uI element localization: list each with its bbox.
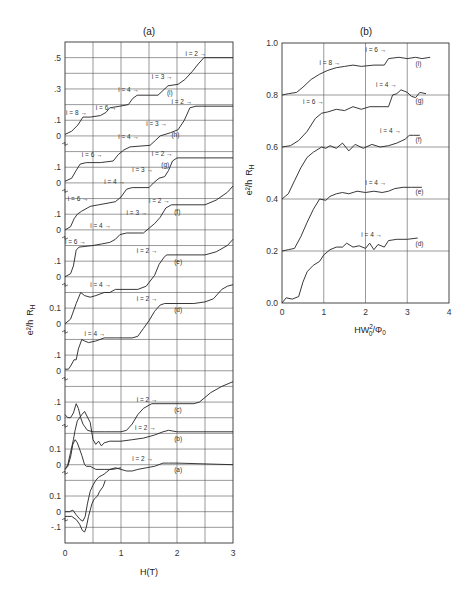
y-tick-label: 0 bbox=[56, 319, 61, 329]
curve-label: (i) bbox=[167, 89, 173, 97]
y-tick-label: 0 bbox=[56, 460, 61, 470]
curve-label: (b) bbox=[174, 435, 182, 443]
axis-break-mark bbox=[62, 189, 68, 192]
filling-factor-annotation: i = 4 → bbox=[104, 178, 125, 185]
y-label-subscript: H bbox=[29, 304, 36, 309]
y-tick-label: .5 bbox=[54, 53, 61, 63]
curve-label: (g) bbox=[416, 97, 424, 105]
curve-i bbox=[282, 57, 430, 95]
filling-factor-annotation: i = 4 → bbox=[90, 281, 111, 288]
y-label-fraction: e²/h bbox=[25, 320, 35, 336]
curve-a-low bbox=[65, 480, 105, 532]
y-tick-label: .1 bbox=[54, 115, 61, 125]
y-tick-label: 0 bbox=[56, 131, 61, 141]
filling-factor-annotation: i = 3 → bbox=[132, 166, 153, 173]
filling-factor-annotation: i = 2 → bbox=[171, 98, 192, 105]
curve-f bbox=[282, 135, 420, 199]
filling-factor-annotation: i = 4 → bbox=[118, 133, 139, 140]
panel-b-grid bbox=[282, 43, 449, 303]
axis-break-mark bbox=[62, 142, 68, 145]
y-tick-label: 0 bbox=[56, 178, 61, 188]
filling-factor-annotation: i = 2 → bbox=[137, 247, 158, 254]
y-tick-label: 0.1 bbox=[49, 444, 61, 454]
filling-factor-annotation: i = 4 → bbox=[380, 127, 401, 134]
filling-factor-annotation: i = 2 → bbox=[137, 396, 158, 403]
filling-factor-annotation: i = 6 → bbox=[68, 195, 89, 202]
curve-e bbox=[282, 187, 422, 251]
filling-factor-annotation: i = 4 → bbox=[366, 179, 387, 186]
y-tick-label: 0.4 bbox=[266, 194, 278, 204]
filling-factor-annotation: i = 8 → bbox=[320, 59, 341, 66]
curve-label: (f) bbox=[174, 208, 180, 216]
x-tick-label: 2 bbox=[175, 548, 180, 558]
y-label-subscript: H bbox=[248, 164, 255, 169]
curve-label: (i) bbox=[416, 60, 422, 68]
filling-factor-annotation: i = 8 → bbox=[66, 109, 87, 116]
filling-factor-annotation: i = 6 → bbox=[303, 98, 324, 105]
y-tick-label: 0 bbox=[56, 413, 61, 423]
curve-label: (c) bbox=[174, 406, 182, 414]
filling-factor-annotation: i = 6 → bbox=[366, 46, 387, 53]
panel-a-title: (a) bbox=[143, 26, 155, 37]
x-tick-label: 3 bbox=[405, 307, 410, 317]
x-tick-label: 0 bbox=[63, 548, 68, 558]
y-tick-label: .1 bbox=[54, 256, 61, 266]
figure-canvas: (a) i = 8 →i = 6 →i = 4 →i = 3 →i = 2 →(… bbox=[0, 0, 471, 591]
curve-label: (a) bbox=[174, 466, 182, 474]
panel-a-x-label: H(T) bbox=[140, 567, 158, 577]
panel-b-y-ticks: 0.00.20.40.60.81.0 bbox=[266, 38, 278, 308]
panel-b-curves: i = 8 →i = 6 →(i)i = 6 →i = 4 →(g)i = 4 … bbox=[282, 46, 430, 303]
y-tick-label: 0 bbox=[56, 366, 61, 376]
filling-factor-annotation: i = 3 → bbox=[146, 120, 167, 127]
y-tick-label: 0 bbox=[56, 272, 61, 282]
y-tick-label: .3 bbox=[54, 84, 61, 94]
panel-a-y-label: e²/hRH bbox=[25, 304, 36, 335]
filling-factor-annotation: i = 6 → bbox=[96, 104, 117, 111]
y-tick-label: .1 bbox=[54, 397, 61, 407]
panel-b-chart: (b) i = 8 →i = 6 →(i)i = 6 →i = 4 →(g)i … bbox=[244, 26, 452, 337]
y-tick-label: 1.0 bbox=[266, 38, 278, 48]
filling-factor-annotation: i = 4 → bbox=[376, 81, 397, 88]
y-tick-label: 0 bbox=[56, 225, 61, 235]
filling-factor-annotation: i = 2 → bbox=[149, 197, 170, 204]
filling-factor-annotation: i = 6 → bbox=[65, 238, 86, 245]
filling-factor-annotation: i = 3 → bbox=[127, 209, 148, 216]
axis-break-mark bbox=[62, 518, 68, 521]
x-tick-label: 4 bbox=[447, 307, 452, 317]
y-tick-label: 0.2 bbox=[266, 246, 278, 256]
x-tick-label: 3 bbox=[231, 548, 236, 558]
y-tick-label: 0 bbox=[56, 507, 61, 517]
panel-a-chart: (a) i = 8 →i = 6 →i = 4 →i = 3 →i = 2 →(… bbox=[25, 26, 236, 577]
filling-factor-annotation: i = 4 → bbox=[85, 330, 106, 337]
y-tick-label: 0.1 bbox=[49, 491, 61, 501]
axis-break-mark bbox=[62, 471, 68, 474]
filling-factor-annotation: i = 2 → bbox=[152, 150, 173, 157]
curve-label: (d) bbox=[416, 240, 424, 248]
filling-factor-annotation: i = 3 → bbox=[152, 73, 173, 80]
x-tick-label: 1 bbox=[321, 307, 326, 317]
curve-label: (e) bbox=[174, 258, 182, 266]
axis-break-mark bbox=[62, 424, 68, 427]
curve-label: (d) bbox=[174, 306, 182, 314]
y-tick-label: .1 bbox=[54, 350, 61, 360]
panel-b-title: (b) bbox=[360, 26, 372, 37]
curve-label: (h) bbox=[171, 131, 179, 139]
x-tick-label: 0 bbox=[280, 307, 285, 317]
filling-factor-annotation: i = 2 → bbox=[132, 455, 153, 462]
axis-break-mark bbox=[62, 283, 68, 286]
curve-label: (g) bbox=[161, 161, 169, 169]
filling-factor-annotation: i = 2 → bbox=[185, 50, 206, 57]
panel-a-y-label-text: e²/hRH bbox=[25, 304, 36, 335]
y-tick-label: -.1 bbox=[51, 522, 61, 532]
y-tick-label: .1 bbox=[54, 209, 61, 219]
filling-factor-annotation: i = 6 → bbox=[82, 151, 103, 158]
filling-factor-annotation: i = 4 → bbox=[118, 86, 139, 93]
filling-factor-annotation: i = 2 → bbox=[137, 295, 158, 302]
axis-break-mark bbox=[62, 377, 68, 380]
panel-b-y-label: e²/hRH bbox=[244, 164, 255, 195]
axis-break-mark bbox=[62, 330, 68, 333]
x-tick-label: 1 bbox=[119, 548, 124, 558]
curve-label: (e) bbox=[416, 188, 424, 196]
y-tick-label: 0.8 bbox=[266, 90, 278, 100]
y-tick-label: 0.6 bbox=[266, 142, 278, 152]
